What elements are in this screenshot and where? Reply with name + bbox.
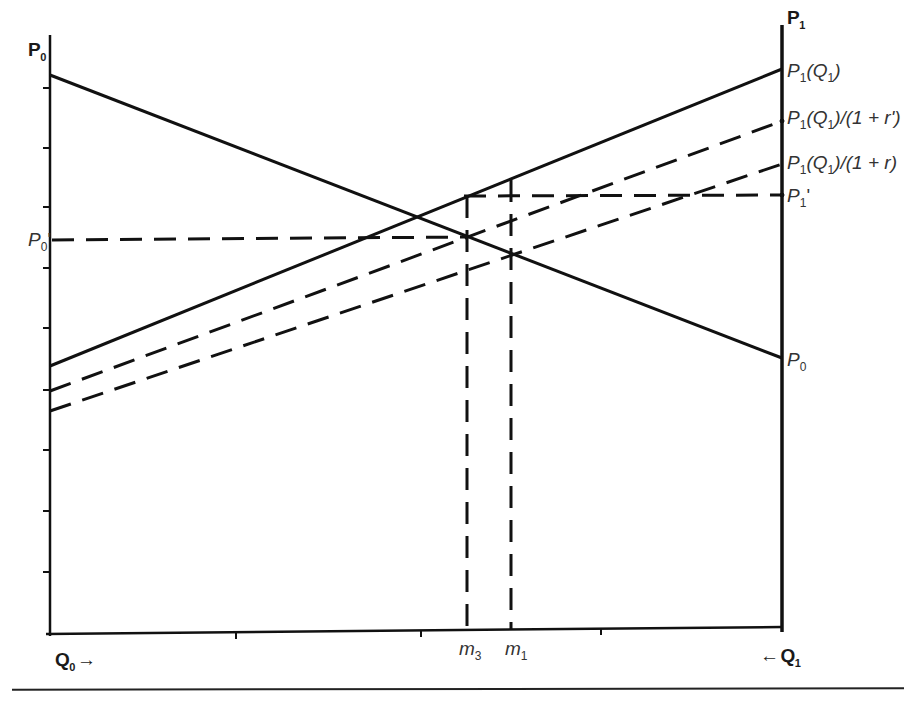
- p1-axis-label: P1: [787, 8, 805, 31]
- r-prime-axis-marker: [780, 119, 784, 123]
- p1q1-r-prime-label: P1(Q1)/(1 + r'): [787, 108, 901, 131]
- p0-axis-label: P0: [28, 40, 46, 63]
- p1q1-r-prime-line: [50, 121, 782, 391]
- p0-prime-reference-line: [52, 237, 466, 240]
- q1-label: ←Q1: [760, 646, 800, 669]
- right-arrow-icon: →: [77, 649, 96, 670]
- p1-prime-axis-marker: [780, 193, 784, 197]
- m1-label: m1: [505, 639, 528, 662]
- m3-label: m3: [459, 639, 482, 662]
- bottom-axis: [46, 627, 782, 634]
- p1q1-label: P1(Q1): [787, 61, 841, 84]
- p1-prime-label: P1': [787, 186, 810, 209]
- p0-prime-label: P0': [28, 230, 51, 253]
- p1q1-r-label: P1(Q1)/(1 + r): [787, 153, 897, 176]
- two-period-allocation-diagram: [0, 0, 920, 702]
- p1q1-r-line: [50, 164, 782, 411]
- p0-end-label: P0: [787, 350, 806, 373]
- q0-label: Q0→: [55, 650, 95, 673]
- left-arrow-icon: ←: [760, 645, 779, 666]
- p1q1-line: [50, 69, 782, 366]
